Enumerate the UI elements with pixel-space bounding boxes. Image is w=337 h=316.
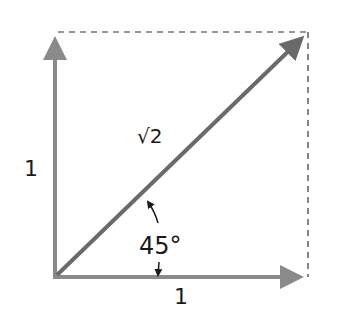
- diagonal-magnitude-label: √2: [137, 126, 162, 146]
- vector-diagram: 1 1 √2 45°: [0, 0, 337, 316]
- angle-label: 45°: [139, 234, 182, 258]
- horizontal-side-label: 1: [174, 286, 188, 308]
- diagram-canvas: [0, 0, 337, 316]
- angle-arrow-down: [158, 262, 159, 275]
- vertical-side-label: 1: [24, 158, 38, 180]
- angle-arrow-up: [148, 202, 158, 223]
